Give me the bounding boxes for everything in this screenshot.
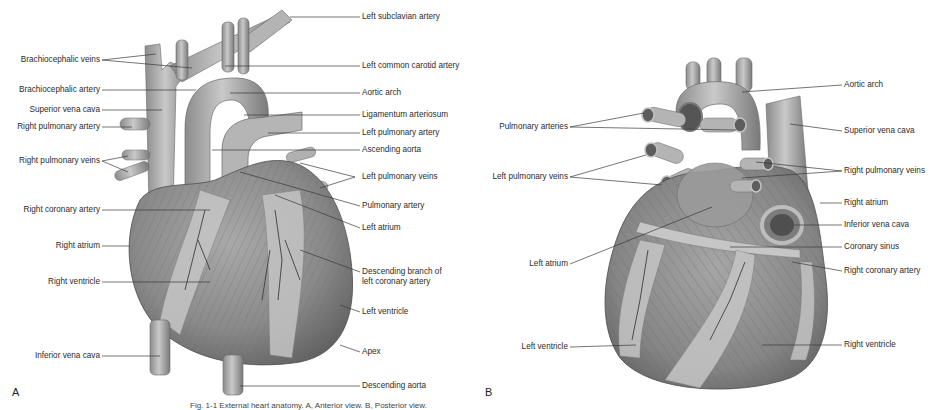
label-aortic-arch-b: Aortic arch [844, 80, 883, 90]
label-right-ventricle-b: Right ventricle [844, 340, 896, 350]
label-left-pulmonary-veins-b: Left pulmonary veins [492, 172, 568, 182]
panel-letter-b: B [485, 386, 492, 398]
label-descending-branch-line2: left coronary artery [362, 277, 430, 287]
label-right-coronary-artery: Right coronary artery [24, 205, 100, 215]
panel-letter-a: A [12, 386, 19, 398]
figure-caption: Fig. 1-1 External heart anatomy. A, Ante… [190, 401, 427, 410]
label-superior-vena-cava-b: Superior vena cava [844, 126, 915, 136]
label-superior-vena-cava: Superior vena cava [29, 105, 100, 115]
label-ligamentum-arteriosum: Ligamentum arteriosum [362, 110, 448, 120]
label-inferior-vena-cava: Inferior vena cava [35, 351, 100, 361]
label-pulmonary-arteries: Pulmonary arteries [499, 122, 568, 132]
label-left-atrium-a: Left atrium [362, 223, 401, 233]
label-left-ventricle-a: Left ventricle [362, 307, 408, 317]
label-pulmonary-artery: Pulmonary artery [362, 201, 424, 211]
label-inferior-vena-cava-b: Inferior vena cava [844, 220, 909, 230]
label-right-pulmonary-veins-b: Right pulmonary veins [844, 166, 925, 176]
label-coronary-sinus: Coronary sinus [844, 242, 899, 252]
heart-posterior-view [605, 58, 828, 389]
label-right-pulmonary-artery: Right pulmonary artery [17, 122, 100, 132]
label-brachiocephalic-veins: Brachiocephalic veins [21, 55, 100, 65]
heart-anterior-view [113, 10, 352, 395]
label-apex: Apex [362, 347, 381, 357]
label-right-atrium-b: Right atrium [844, 198, 888, 208]
label-descending-aorta: Descending aorta [362, 381, 426, 391]
label-aortic-arch-a: Aortic arch [362, 88, 401, 98]
label-left-atrium-b: Left atrium [529, 259, 568, 269]
label-ascending-aorta: Ascending aorta [362, 145, 421, 155]
label-right-ventricle: Right ventricle [48, 277, 100, 287]
label-left-ventricle-b: Left ventricle [522, 342, 568, 352]
label-right-atrium: Right atrium [56, 241, 100, 251]
label-brachiocephalic-artery: Brachiocephalic artery [19, 85, 100, 95]
label-right-pulmonary-veins: Right pulmonary veins [19, 156, 100, 166]
label-left-common-carotid-artery: Left common carotid artery [362, 61, 459, 71]
label-left-pulmonary-artery: Left pulmonary artery [362, 128, 439, 138]
label-left-pulmonary-veins-a: Left pulmonary veins [362, 172, 438, 182]
label-descending-branch-line1: Descending branch of [362, 267, 442, 277]
label-left-subclavian-artery: Left subclavian artery [362, 12, 440, 22]
label-right-coronary-artery-b: Right coronary artery [844, 266, 920, 276]
